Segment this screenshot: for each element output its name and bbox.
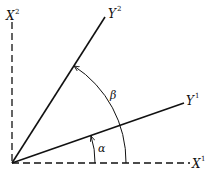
alpha-arc [91,136,95,163]
svg-text:2: 2 [117,5,121,13]
svg-text:Y: Y [108,7,117,21]
y1-label: Y 1 [186,92,199,108]
coordinate-diagram: X 2 Y 2 Y 1 X 1 β α [0,0,209,171]
svg-text:2: 2 [15,8,19,16]
y2-label: Y 2 [108,5,121,21]
svg-text:Y: Y [186,94,195,108]
alpha-label: α [98,142,106,155]
svg-text:X: X [191,157,201,171]
beta-label: β [109,89,116,102]
svg-text:1: 1 [195,92,199,100]
y2-axis [12,17,105,163]
svg-text:1: 1 [201,155,205,163]
x1-label: X 1 [191,155,205,171]
svg-text:X: X [5,9,15,23]
x2-label: X 2 [5,8,19,23]
